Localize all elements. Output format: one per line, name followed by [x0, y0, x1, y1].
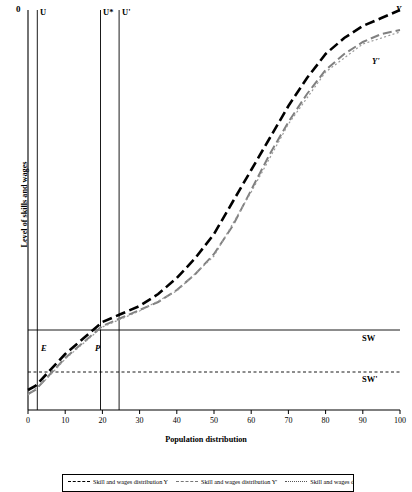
- y-axis-title: Level of skills and wages: [20, 135, 29, 275]
- x-tick-label-10: 10: [61, 416, 69, 425]
- legend-swatch-dashed-heavy-icon: [68, 481, 90, 482]
- reference-label-U: U: [40, 7, 46, 17]
- x-tick-label-20: 20: [98, 416, 106, 425]
- reference-label-SW-prime: SW': [362, 374, 378, 384]
- annotation-Y: Y: [396, 4, 401, 14]
- x-tick-label-50: 50: [210, 416, 218, 425]
- x-tick-label-0: 0: [26, 416, 30, 425]
- legend-label-2: Skill and wages distribution Y'': [310, 478, 354, 485]
- reference-label-SW: SW: [362, 333, 375, 343]
- legend-item-1: Skill and wages distribution Y': [176, 478, 277, 485]
- series-line-Y: [28, 10, 400, 390]
- legend-item-0: Skill and wages distribution Y: [68, 478, 168, 485]
- reference-label-U-prime: U': [122, 7, 131, 17]
- chart-figure: 0 Level of skills and wages Population d…: [0, 0, 412, 492]
- legend-item-2: Skill and wages distribution Y'': [285, 478, 354, 485]
- series-line-Y-double-prime: [28, 32, 400, 395]
- x-tick-label-40: 40: [173, 416, 181, 425]
- legend-swatch-dotted-grey-icon: [285, 481, 307, 482]
- x-tick-label-90: 90: [359, 416, 367, 425]
- x-axis-title: Population distribution: [0, 435, 412, 444]
- x-tick-label-70: 70: [284, 416, 292, 425]
- plot-area: 0 Level of skills and wages Population d…: [0, 0, 412, 492]
- x-tick-label-100: 100: [394, 416, 406, 425]
- y-axis-origin-label: 0: [16, 4, 21, 14]
- legend-label-1: Skill and wages distribution Y': [201, 478, 277, 485]
- legend-swatch-dashed-grey-icon: [176, 481, 198, 482]
- annotation-E: E: [41, 343, 47, 353]
- annotation-P: P: [95, 343, 100, 353]
- x-tick-marks: [28, 410, 400, 414]
- reference-label-U-star: U*: [103, 7, 113, 17]
- chart-legend: Skill and wages distribution Y Skill and…: [62, 474, 354, 492]
- x-tick-label-30: 30: [136, 416, 144, 425]
- annotation-Y-prime: Y': [372, 56, 380, 66]
- x-tick-label-60: 60: [247, 416, 255, 425]
- x-tick-label-80: 80: [322, 416, 330, 425]
- legend-label-0: Skill and wages distribution Y: [93, 478, 168, 485]
